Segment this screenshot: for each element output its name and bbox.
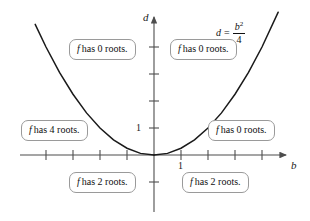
callout-text: has 2 roots. [82, 176, 128, 187]
equation-numerator-exponent: 2 [240, 20, 244, 28]
callout-text: has 0 roots. [82, 43, 128, 54]
callout-text: has 0 roots. [221, 124, 267, 135]
plot-graphics [0, 0, 310, 221]
y-axis-label: d [143, 12, 149, 23]
figure-canvas: d b 1 1 d = b2 4 fhas 0 roots. fhas 0 ro… [0, 0, 310, 221]
callout-upper-left: fhas 0 roots. [69, 39, 136, 60]
x-axis-tick-label-1: 1 [178, 161, 183, 171]
y-axis-tick-label-1: 1 [136, 123, 141, 133]
equation-equals: = [221, 28, 233, 38]
callout-lower-left: fhas 2 roots. [69, 172, 136, 193]
callout-mid-left: fhas 4 roots. [21, 120, 88, 141]
x-axis-label: b [291, 160, 297, 171]
equation-numerator: b2 [233, 21, 246, 33]
callout-lower-right: fhas 2 roots. [182, 172, 249, 193]
callout-text: has 2 roots. [195, 176, 241, 187]
callout-upper-right: fhas 0 roots. [170, 39, 237, 60]
callout-mid-right: fhas 0 roots. [208, 120, 275, 141]
callout-text: has 4 roots. [34, 124, 80, 135]
callout-text: has 0 roots. [183, 43, 229, 54]
